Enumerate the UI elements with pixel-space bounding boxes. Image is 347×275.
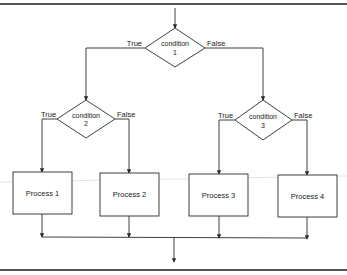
flowchart-diagram: condition 1 True False condition 2 True …	[0, 0, 347, 275]
condition-1-true-connector	[86, 48, 145, 100]
condition-3-false-connector	[292, 120, 307, 175]
condition-3-diamond	[235, 100, 292, 140]
process-1-label: Process 1	[26, 189, 59, 198]
condition-2-diamond	[57, 100, 115, 138]
condition-1-false-connector	[205, 48, 263, 100]
condition-3-false-label: False	[294, 111, 312, 120]
condition-1-false-label: False	[207, 39, 225, 48]
condition-2-true-label: True	[41, 110, 56, 119]
process-3-label: Process 3	[202, 191, 235, 200]
condition-2-true-connector	[42, 119, 57, 172]
merge-line	[42, 237, 307, 238]
condition-1-label-line1: condition	[161, 40, 189, 47]
condition-2-false-label: False	[117, 110, 135, 119]
condition-3-label-line2: 3	[261, 122, 265, 129]
condition-2-label-line1: condition	[72, 112, 100, 119]
condition-1-true-label: True	[127, 39, 142, 48]
condition-1-label-line2: 1	[173, 49, 177, 56]
condition-2-label-line2: 2	[84, 120, 88, 127]
process-2-label: Process 2	[113, 190, 146, 199]
condition-2-false-connector	[115, 119, 129, 173]
condition-3-true-label: True	[218, 111, 233, 120]
condition-1-diamond	[145, 28, 205, 67]
condition-3-true-connector	[219, 120, 235, 174]
process-4-label: Process 4	[291, 192, 324, 201]
condition-3-label-line1: condition	[249, 113, 277, 120]
